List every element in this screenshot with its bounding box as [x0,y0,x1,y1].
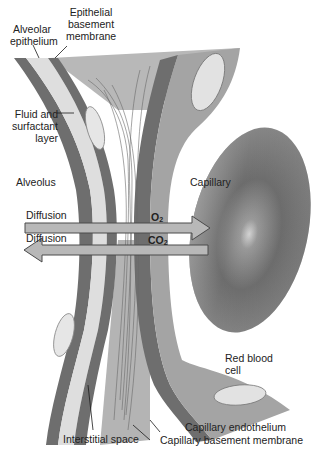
label-alveolar-epithelium: Alveolar epithelium [10,23,54,47]
label-interstitial-space: Interstitial space [63,433,139,445]
label-co2: CO2 [148,234,168,249]
label-fluid-surfactant-layer: Fluid and surfactant layer [10,108,58,144]
label-capillary-endothelium: Capillary endothelium [185,421,286,433]
label-epithelial-basement-membrane: Epithelial basement membrane [66,6,116,42]
label-capillary-basement-membrane: Capillary basement membrane [160,434,303,446]
label-alveolus: Alveolus [16,176,56,188]
label-o2: O2 [151,211,163,226]
label-red-blood-cell: Red blood cell [225,352,273,376]
diagram-illustration [0,0,313,452]
label-capillary: Capillary [190,176,231,188]
label-diffusion-co2: Diffusion [26,232,67,244]
label-diffusion-o2: Diffusion [26,209,67,221]
alveolar-capillary-diagram: Alveolar epithelium Epithelial basement … [0,0,313,452]
